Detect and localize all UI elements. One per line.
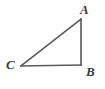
side-BC-line xyxy=(21,65,81,66)
vertex-label-c: C xyxy=(6,58,15,71)
geometry-figure: A B C xyxy=(0,0,105,89)
vertex-label-b: B xyxy=(86,65,95,78)
vertex-label-a: A xyxy=(80,3,89,16)
side-CA-line xyxy=(21,19,81,66)
